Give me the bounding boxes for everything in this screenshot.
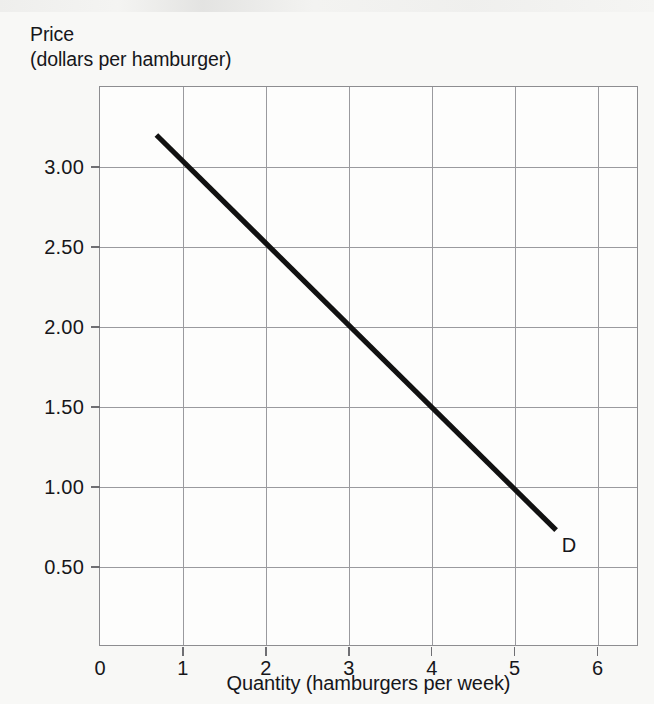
x-tick-mark: [348, 647, 350, 656]
gridline-vertical: [598, 87, 599, 645]
scan-noise-band: [0, 0, 654, 12]
demand-curve-line: [156, 135, 556, 530]
y-tick-label: 0.50: [44, 556, 84, 579]
x-tick-mark: [514, 647, 516, 656]
y-tick-label: 1.50: [44, 396, 84, 419]
gridline-vertical: [515, 87, 516, 645]
y-tick-mark: [91, 166, 100, 168]
x-tick-mark: [265, 647, 267, 656]
gridline-horizontal: [100, 487, 637, 488]
y-axis-title-line-1: Price: [30, 22, 231, 47]
y-tick-label: 2.50: [44, 236, 84, 259]
x-tick-mark: [597, 647, 599, 656]
gridline-horizontal: [100, 327, 637, 328]
y-tick-label: 3.00: [44, 156, 84, 179]
x-tick-mark: [431, 647, 433, 656]
gridline-vertical: [266, 87, 267, 645]
y-axis-title-line-2: (dollars per hamburger): [30, 47, 231, 72]
gridline-horizontal: [100, 407, 637, 408]
gridline-horizontal: [100, 247, 637, 248]
y-tick-label: 2.00: [44, 316, 84, 339]
y-tick-mark: [91, 486, 100, 488]
y-tick-mark: [91, 326, 100, 328]
gridline-vertical: [349, 87, 350, 645]
x-tick-mark: [182, 647, 184, 656]
demand-curve: [100, 87, 639, 647]
curve-label-d: D: [562, 535, 576, 555]
gridline-vertical: [183, 87, 184, 645]
gridline-horizontal: [100, 167, 637, 168]
plot-area: 01234563.002.502.001.501.000.50 D: [99, 86, 638, 646]
y-axis-title: Price (dollars per hamburger): [30, 22, 231, 72]
gridline-horizontal: [100, 567, 637, 568]
y-tick-mark: [91, 566, 100, 568]
x-axis-title: Quantity (hamburgers per week): [99, 672, 638, 695]
gridline-vertical: [432, 87, 433, 645]
y-tick-label: 1.00: [44, 476, 84, 499]
y-tick-mark: [91, 406, 100, 408]
y-tick-mark: [91, 246, 100, 248]
